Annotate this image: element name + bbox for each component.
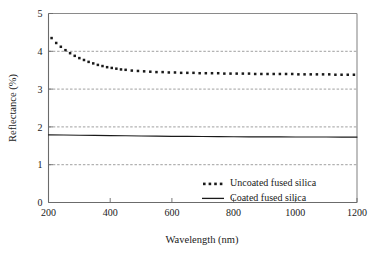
data-point-uncoated	[143, 70, 146, 73]
data-point-uncoated	[78, 57, 81, 60]
y-tick-label-2: 2	[38, 122, 43, 133]
data-point-uncoated	[55, 42, 58, 45]
data-point-uncoated	[211, 72, 214, 75]
data-point-uncoated	[168, 71, 171, 74]
legend-label-uncoated: Uncoated fused silica	[230, 177, 317, 188]
data-point-uncoated	[180, 72, 183, 75]
data-point-uncoated	[110, 67, 113, 70]
data-point-uncoated	[50, 37, 53, 40]
data-point-uncoated	[291, 73, 294, 76]
legend-marker-dotted	[214, 183, 217, 186]
data-point-uncoated	[217, 72, 220, 75]
y-tick-label-0: 0	[38, 197, 43, 208]
data-point-uncoated	[235, 72, 238, 75]
data-point-uncoated	[242, 72, 245, 75]
data-point-uncoated	[260, 73, 263, 76]
data-point-uncoated	[149, 70, 152, 73]
data-point-uncoated	[322, 73, 325, 76]
x-tick-label-800: 800	[226, 207, 241, 218]
data-point-uncoated	[87, 61, 90, 64]
y-axis-title: Reflectance (%)	[7, 74, 19, 142]
data-point-uncoated	[297, 73, 300, 76]
y-tick-label-5: 5	[38, 8, 43, 19]
data-point-uncoated	[266, 73, 269, 76]
data-point-uncoated	[229, 72, 232, 75]
data-point-uncoated	[174, 71, 177, 74]
data-point-uncoated	[328, 73, 331, 76]
data-point-uncoated	[106, 66, 109, 69]
x-tick-label-600: 600	[164, 207, 179, 218]
data-point-uncoated	[316, 73, 319, 76]
data-point-uncoated	[285, 73, 288, 76]
legend-marker-dotted	[220, 183, 223, 186]
data-point-uncoated	[155, 71, 158, 74]
data-point-uncoated	[334, 73, 337, 76]
data-point-uncoated	[340, 73, 343, 76]
data-point-uncoated	[272, 73, 275, 76]
x-tick-label-1000: 1000	[285, 207, 305, 218]
data-point-uncoated	[303, 73, 306, 76]
legend-marker-dotted	[203, 183, 206, 186]
y-tick-label-1: 1	[38, 159, 43, 170]
data-point-uncoated	[73, 55, 76, 58]
data-point-uncoated	[186, 72, 189, 75]
x-tick-label-200: 200	[41, 207, 56, 218]
data-point-uncoated	[279, 73, 282, 76]
data-point-uncoated	[64, 49, 67, 52]
data-point-uncoated	[131, 69, 134, 72]
data-point-uncoated	[92, 62, 95, 64]
data-point-uncoated	[83, 59, 86, 62]
data-point-uncoated	[223, 72, 226, 75]
data-point-uncoated	[124, 69, 127, 72]
y-tick-label-4: 4	[38, 46, 43, 57]
data-point-uncoated	[69, 52, 72, 55]
chart-background	[0, 0, 387, 256]
reflectance-chart: 20040060080010001200 012345 Uncoated fus…	[0, 0, 387, 256]
legend-label-coated: Coated fused silica	[230, 192, 307, 203]
chart-figure: 20040060080010001200 012345 Uncoated fus…	[0, 0, 387, 256]
data-point-uncoated	[97, 64, 100, 67]
data-point-uncoated	[60, 46, 63, 49]
data-point-uncoated	[192, 72, 195, 75]
data-point-uncoated	[137, 70, 140, 73]
x-tick-label-400: 400	[103, 207, 118, 218]
data-point-uncoated	[248, 72, 251, 75]
data-point-uncoated	[101, 65, 104, 68]
data-point-uncoated	[353, 73, 356, 76]
x-tick-label-1200: 1200	[347, 207, 367, 218]
y-tick-label-3: 3	[38, 84, 43, 95]
data-point-uncoated	[161, 71, 164, 74]
data-point-uncoated	[205, 72, 208, 75]
data-point-uncoated	[346, 73, 349, 76]
x-axis-title: Wavelength (nm)	[166, 234, 239, 246]
data-point-uncoated	[198, 72, 201, 75]
data-point-uncoated	[120, 68, 123, 71]
legend-marker-dotted	[209, 183, 212, 186]
data-point-uncoated	[309, 73, 312, 76]
data-point-uncoated	[115, 67, 118, 70]
data-point-uncoated	[254, 73, 257, 76]
